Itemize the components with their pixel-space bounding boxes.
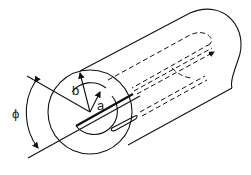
label-a: a <box>97 98 105 113</box>
hidden-lines <box>108 33 214 116</box>
label-b: b <box>72 83 79 98</box>
radius-b-arrow <box>80 73 90 112</box>
angle-phi-arc <box>26 82 38 148</box>
cylinder-body <box>80 9 241 145</box>
label-phi: ϕ <box>12 106 19 121</box>
hollow-cylinder-diagram: b a ϕ <box>0 0 251 175</box>
